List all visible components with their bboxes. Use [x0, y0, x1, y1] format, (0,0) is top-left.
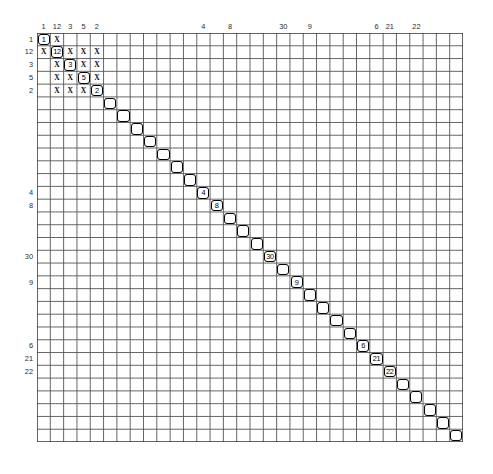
- row-label: 30: [12, 253, 33, 260]
- matrix-nonzero-mark: X: [90, 71, 103, 84]
- matrix-diagonal-block: 2: [91, 85, 103, 97]
- matrix-diagonal-block: 4: [197, 187, 209, 199]
- column-label: 22: [407, 23, 425, 30]
- matrix-diagonal-block: [437, 417, 449, 429]
- matrix-diagonal-block: 8: [211, 200, 223, 212]
- row-label: 5: [12, 74, 33, 81]
- matrix-diagonal-block: 12: [51, 46, 63, 58]
- matrix-diagonal-block: [397, 379, 409, 391]
- matrix-diagonal-block: [344, 328, 356, 340]
- matrix-diagonal-block: 21: [370, 353, 382, 365]
- row-label: 2: [12, 87, 33, 94]
- matrix-diagonal-block: [424, 404, 436, 416]
- matrix-diagonal-block: 1: [38, 34, 50, 46]
- matrix-diagonal-block: [117, 110, 129, 122]
- row-label: 21: [12, 355, 33, 362]
- matrix-diagonal-block: [251, 238, 263, 250]
- matrix-diagonal-block: [330, 315, 342, 327]
- matrix-diagonal-block: [131, 123, 143, 135]
- column-label: 9: [301, 23, 319, 30]
- matrix-nonzero-mark: X: [77, 84, 90, 97]
- column-label: 2: [88, 23, 106, 30]
- matrix-diagonal-block: [171, 161, 183, 173]
- row-label: 6: [12, 342, 33, 349]
- row-label: 8: [12, 202, 33, 209]
- column-label: 8: [221, 23, 239, 30]
- matrix-nonzero-mark: X: [37, 46, 50, 59]
- matrix-nonzero-mark: X: [90, 59, 103, 72]
- matrix-diagonal-block: 3: [64, 59, 76, 71]
- matrix-nonzero-mark: X: [90, 46, 103, 59]
- matrix-nonzero-mark: X: [50, 59, 63, 72]
- matrix-diagonal-block: 9: [291, 276, 303, 288]
- matrix-diagonal-block: [317, 302, 329, 314]
- matrix-diagonal-block: 30: [264, 251, 276, 263]
- matrix-diagonal-block: [184, 174, 196, 186]
- row-label: 4: [12, 189, 33, 196]
- matrix-nonzero-mark: X: [77, 59, 90, 72]
- matrix-diagonal-block: [157, 149, 169, 161]
- matrix-nonzero-mark: X: [64, 46, 77, 59]
- matrix-diagonal-block: [237, 225, 249, 237]
- matrix-nonzero-mark: X: [50, 71, 63, 84]
- matrix-diagonal-block: [144, 136, 156, 148]
- matrix-diagonal-block: [277, 264, 289, 276]
- matrix-diagonal-block: [304, 289, 316, 301]
- row-label: 3: [12, 61, 33, 68]
- column-label: 30: [274, 23, 292, 30]
- matrix-nonzero-mark: X: [64, 71, 77, 84]
- matrix-diagonal-block: [450, 430, 462, 442]
- row-label: 12: [12, 48, 33, 55]
- matrix-diagonal-block: 22: [384, 366, 396, 378]
- sparsity-matrix-grid: XXXXXXXXXXXXXX1123524830962122: [37, 33, 463, 442]
- matrix-diagonal-block: [410, 391, 422, 403]
- matrix-diagonal-block: [104, 98, 116, 110]
- matrix-diagonal-block: 5: [78, 72, 90, 84]
- row-label: 22: [12, 368, 33, 375]
- matrix-nonzero-mark: X: [64, 84, 77, 97]
- matrix-diagonal-block: [224, 213, 236, 225]
- row-label: 9: [12, 279, 33, 286]
- row-label: 1: [12, 36, 33, 43]
- figure-canvas: 1123524830962122 1123524830962122 XXXXXX…: [0, 0, 493, 474]
- matrix-nonzero-mark: X: [50, 33, 63, 46]
- column-label: 21: [381, 23, 399, 30]
- matrix-nonzero-mark: X: [77, 46, 90, 59]
- matrix-nonzero-mark: X: [50, 84, 63, 97]
- matrix-diagonal-block: 6: [357, 340, 369, 352]
- column-label: 4: [194, 23, 212, 30]
